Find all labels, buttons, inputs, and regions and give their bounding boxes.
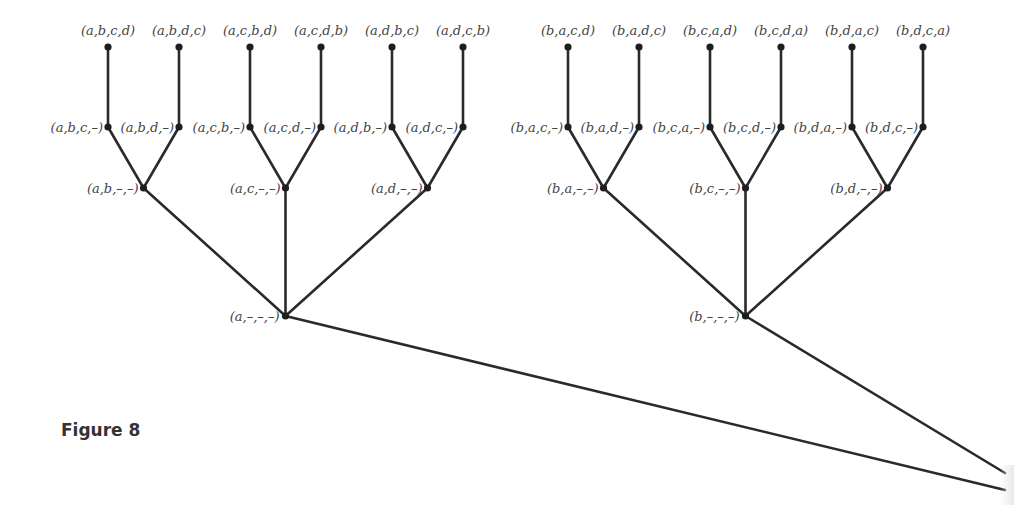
edge-branch-to-mid	[604, 127, 640, 188]
level3-label: (b,d,a,–)	[794, 120, 847, 135]
leaf-label: (b,c,d,a)	[754, 23, 808, 38]
level3-label: (a,d,c,–)	[406, 120, 458, 135]
level2-label: (a,b,–,–)	[87, 181, 139, 196]
leaf-node	[777, 43, 784, 50]
leaf-node	[246, 43, 253, 50]
level2-label: (a,c,–,–)	[230, 181, 281, 196]
edge-branch-to-mid	[852, 127, 888, 188]
level2-label: (a,d,–,–)	[371, 181, 423, 196]
level3-label: (a,b,d,–)	[121, 120, 174, 135]
root-node	[282, 312, 289, 319]
leaf-label: (a,d,c,b)	[436, 23, 490, 38]
level3-node	[777, 123, 784, 130]
edge-branch-to-mid	[428, 127, 464, 188]
edge-root-to-branch	[746, 188, 888, 316]
root-label: (a,–,–,–)	[230, 309, 280, 324]
figure-caption: Figure 8	[61, 420, 140, 440]
level3-node	[635, 123, 642, 130]
edge-root-to-parent	[746, 316, 1006, 473]
level2-node	[282, 184, 289, 191]
level3-label: (b,c,d,–)	[723, 120, 776, 135]
level3-label: (a,d,b,–)	[334, 120, 387, 135]
level3-label: (b,d,c,–)	[865, 120, 918, 135]
level3-node	[459, 123, 466, 130]
level3-node	[104, 123, 111, 130]
leaf-label: (a,c,d,b)	[294, 23, 348, 38]
level3-label: (b,a,c,–)	[511, 120, 563, 135]
level3-node	[919, 123, 926, 130]
edge-branch-to-mid	[108, 127, 144, 188]
edge-root-to-branch	[286, 188, 428, 316]
level2-label: (b,c,–,–)	[689, 181, 740, 196]
edge-branch-to-mid	[144, 127, 180, 188]
edge-branch-to-mid	[286, 127, 322, 188]
level3-label: (a,c,b,–)	[193, 120, 245, 135]
level2-node	[742, 184, 749, 191]
leaf-node	[635, 43, 642, 50]
level3-label: (a,b,c,–)	[51, 120, 103, 135]
leaf-label: (b,d,c,a)	[896, 23, 950, 38]
edge-fade	[1000, 465, 1014, 505]
level3-node	[317, 123, 324, 130]
leaf-node	[564, 43, 571, 50]
leaf-label: (b,a,c,d)	[541, 23, 595, 38]
level2-node	[424, 184, 431, 191]
root-label: (b,–,–,–)	[689, 309, 739, 324]
root-node	[742, 312, 749, 319]
level2-node	[884, 184, 891, 191]
leaf-node	[919, 43, 926, 50]
leaf-label: (a,d,b,c)	[365, 23, 419, 38]
edge-branch-to-mid	[746, 127, 782, 188]
edge-root-to-parent	[286, 316, 1006, 490]
edge-branch-to-mid	[710, 127, 746, 188]
leaf-node	[175, 43, 182, 50]
edge-branch-to-mid	[250, 127, 286, 188]
level3-node	[175, 123, 182, 130]
level3-label: (b,c,a,–)	[653, 120, 705, 135]
leaf-node	[706, 43, 713, 50]
level2-label: (b,d,–,–)	[830, 181, 882, 196]
leaf-label: (b,c,a,d)	[683, 23, 737, 38]
level2-label: (b,a,–,–)	[547, 181, 599, 196]
level2-node	[140, 184, 147, 191]
leaf-label: (b,a,d,c)	[612, 23, 666, 38]
level3-label: (b,a,d,–)	[581, 120, 634, 135]
leaf-node	[104, 43, 111, 50]
level3-node	[706, 123, 713, 130]
edge-branch-to-mid	[568, 127, 604, 188]
level2-node	[600, 184, 607, 191]
edge-root-to-branch	[144, 188, 286, 316]
leaf-label: (b,d,a,c)	[825, 23, 879, 38]
level3-label: (a,c,d,–)	[264, 120, 316, 135]
edge-branch-to-mid	[392, 127, 428, 188]
leaf-node	[388, 43, 395, 50]
level3-node	[246, 123, 253, 130]
leaf-node	[317, 43, 324, 50]
leaf-label: (a,c,b,d)	[223, 23, 277, 38]
edge-root-to-branch	[604, 188, 746, 316]
level3-node	[564, 123, 571, 130]
leaf-node	[848, 43, 855, 50]
leaf-node	[459, 43, 466, 50]
level3-node	[848, 123, 855, 130]
leaf-label: (a,b,d,c)	[152, 23, 206, 38]
edge-branch-to-mid	[888, 127, 924, 188]
level3-node	[388, 123, 395, 130]
permutation-tree-diagram: (a,b,c,d)(a,b,c,–)(a,b,d,c)(a,b,d,–)(a,b…	[0, 0, 1014, 526]
leaf-label: (a,b,c,d)	[81, 23, 135, 38]
